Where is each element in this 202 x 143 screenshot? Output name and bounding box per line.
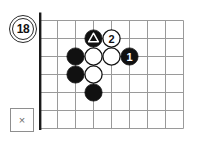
black-stone-triangle[interactable] bbox=[85, 30, 102, 47]
black-stone-disc bbox=[67, 48, 84, 65]
black-stone-a[interactable] bbox=[67, 48, 84, 65]
go-board-canvas[interactable]: 21 bbox=[39, 12, 195, 130]
white-stone-move-2[interactable]: 2 bbox=[103, 30, 120, 47]
top-crop-artifact bbox=[0, 0, 202, 7]
white-stone-disc bbox=[103, 48, 120, 65]
white-stone-c[interactable] bbox=[85, 66, 102, 83]
figure-number-badge-ring: 18 bbox=[12, 18, 35, 41]
black-stone-move-1[interactable]: 1 bbox=[121, 48, 138, 65]
stone-move-number: 1 bbox=[126, 51, 132, 63]
black-stone-b[interactable] bbox=[67, 66, 84, 83]
figure-number-text: 18 bbox=[17, 23, 30, 35]
go-diagram-figure: 18 × 21 bbox=[0, 0, 202, 143]
black-stone-disc bbox=[85, 84, 102, 101]
close-box[interactable]: × bbox=[10, 108, 34, 132]
white-stone-a[interactable] bbox=[85, 48, 102, 65]
white-stone-disc bbox=[85, 48, 102, 65]
stone-move-number: 2 bbox=[108, 33, 114, 45]
figure-number-badge: 18 bbox=[9, 15, 37, 43]
white-stone-disc bbox=[85, 66, 102, 83]
white-stone-b[interactable] bbox=[103, 48, 120, 65]
black-stone-c[interactable] bbox=[85, 84, 102, 101]
go-board[interactable]: 21 bbox=[39, 12, 195, 130]
black-stone-disc bbox=[67, 66, 84, 83]
close-icon: × bbox=[19, 115, 25, 126]
